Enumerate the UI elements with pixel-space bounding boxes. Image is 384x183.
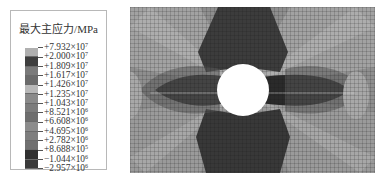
stress-contour-plot xyxy=(130,7,375,173)
legend-tick xyxy=(38,168,43,169)
legend-tick xyxy=(38,140,43,141)
legend-band xyxy=(25,94,38,103)
legend-tick xyxy=(38,85,43,86)
legend-band xyxy=(25,141,38,150)
legend-tick xyxy=(38,131,43,132)
legend-tick xyxy=(38,159,43,160)
legend-tick xyxy=(38,103,43,104)
mesh-contour-svg xyxy=(130,7,375,173)
legend-tick xyxy=(38,47,43,48)
legend-band xyxy=(25,76,38,85)
legend-tick xyxy=(38,57,43,58)
legend-tick xyxy=(38,66,43,67)
legend-title: 最大主应力/MPa xyxy=(11,20,106,36)
legend-band xyxy=(25,160,38,169)
legend-band xyxy=(25,132,38,141)
legend-value: −2.957×106 xyxy=(38,164,88,173)
legend-tick xyxy=(38,150,43,151)
legend-band xyxy=(25,104,38,113)
legend-color-bar xyxy=(25,48,38,169)
legend-tick xyxy=(38,112,43,113)
legend-tick xyxy=(38,94,43,95)
legend-band xyxy=(25,113,38,122)
legend-band xyxy=(25,122,38,131)
legend-band xyxy=(25,67,38,76)
legend-band xyxy=(25,85,38,94)
legend-tick xyxy=(38,75,43,76)
legend-band xyxy=(25,57,38,66)
contour-legend: 最大主应力/MPa +7.932×107+2.000×107+1.809×107… xyxy=(10,10,107,170)
legend-band xyxy=(25,48,38,57)
legend-tick xyxy=(38,122,43,123)
legend-band xyxy=(25,150,38,159)
circular-hole xyxy=(217,64,269,116)
